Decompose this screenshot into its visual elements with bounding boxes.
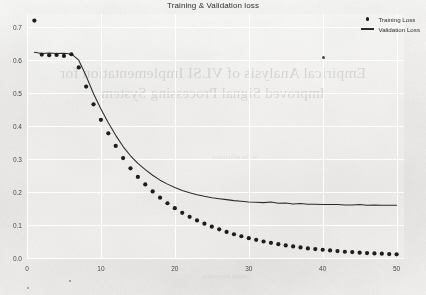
training-loss-point: [387, 252, 391, 256]
training-loss-point: [239, 234, 243, 238]
training-loss-point: [91, 102, 95, 106]
training-loss-point: [114, 144, 118, 148]
training-loss-point: [77, 65, 81, 69]
training-loss-point: [121, 156, 125, 160]
training-loss-point: [276, 242, 280, 246]
training-loss-point: [313, 247, 317, 251]
legend-marker: [356, 17, 378, 20]
training-loss-point: [136, 175, 140, 179]
training-loss-point: [335, 249, 339, 253]
y-tick-label: 0.2: [13, 189, 22, 196]
training-loss-point: [306, 246, 310, 250]
training-loss-point: [358, 251, 362, 255]
plot-area: 0.00.10.20.30.40.50.60.7 01020304050: [27, 14, 404, 258]
training-loss-point: [380, 252, 384, 256]
chart-title: Training & Validation loss: [0, 1, 426, 10]
legend-line-icon: [361, 28, 374, 29]
training-loss-point: [69, 52, 73, 56]
x-tick-label: 50: [393, 265, 400, 272]
training-loss-point: [54, 53, 58, 57]
x-tick-label: 40: [319, 265, 326, 272]
legend-entry: Training Loss: [356, 14, 420, 24]
training-loss-point: [128, 166, 132, 170]
data-layer: [27, 14, 404, 258]
x-tick-label: 30: [245, 265, 252, 272]
training-loss-point: [321, 248, 325, 252]
scan-speck: [27, 287, 29, 289]
training-loss-point: [372, 251, 376, 255]
chart-screenshot: Empirical Analysis of VLSI Implementatio…: [0, 0, 426, 295]
gridline-horizontal: [27, 258, 404, 259]
legend-entry: Validation Loss: [356, 24, 420, 34]
training-loss-point: [158, 196, 162, 200]
ghost-text-bottom: signal processing: [150, 272, 300, 279]
training-loss-point: [151, 189, 155, 193]
training-loss-point: [32, 18, 36, 22]
y-tick-label: 0.3: [13, 156, 22, 163]
y-tick-label: 0.1: [13, 222, 22, 229]
training-loss-point: [84, 84, 88, 88]
training-loss-point: [47, 53, 51, 57]
training-loss-point: [232, 232, 236, 236]
x-tick-label: 20: [171, 265, 178, 272]
y-tick-label: 0.6: [13, 57, 22, 64]
training-loss-point: [188, 215, 192, 219]
training-loss-point: [180, 211, 184, 215]
training-loss-point: [328, 248, 332, 252]
legend-marker: [356, 28, 378, 29]
legend-label: Training Loss: [378, 16, 415, 23]
training-loss-point: [365, 251, 369, 255]
training-loss-point: [210, 225, 214, 229]
training-loss-point: [350, 250, 354, 254]
training-loss-point: [224, 230, 228, 234]
training-loss-point: [217, 227, 221, 231]
training-loss-point: [202, 222, 206, 226]
y-tick-label: 0.4: [13, 123, 22, 130]
training-loss-point: [195, 218, 199, 222]
training-loss-point: [254, 238, 258, 242]
y-tick-label: 0.7: [13, 24, 22, 31]
training-loss-point: [343, 250, 347, 254]
training-loss-point: [269, 241, 273, 245]
training-loss-point: [395, 252, 399, 256]
validation-loss-line: [34, 52, 396, 205]
y-tick-label: 0.0: [13, 255, 22, 262]
training-loss-point: [298, 245, 302, 249]
training-loss-point: [99, 118, 103, 122]
x-tick-label: 0: [25, 265, 29, 272]
training-loss-point: [165, 201, 169, 205]
training-loss-point: [40, 52, 44, 56]
legend-dot-icon: [366, 17, 369, 20]
training-loss-points: [32, 18, 398, 256]
scan-speck: [69, 280, 71, 282]
y-tick-label: 0.5: [13, 90, 22, 97]
training-loss-point: [247, 236, 251, 240]
training-loss-point: [261, 239, 265, 243]
training-loss-point: [291, 244, 295, 248]
training-loss-point: [173, 206, 177, 210]
training-loss-point: [62, 54, 66, 58]
chart-legend: Training LossValidation Loss: [356, 14, 420, 34]
x-tick-label: 10: [97, 265, 104, 272]
training-loss-point: [106, 131, 110, 135]
legend-label: Validation Loss: [378, 26, 420, 33]
training-loss-point: [284, 243, 288, 247]
training-loss-point: [143, 182, 147, 186]
